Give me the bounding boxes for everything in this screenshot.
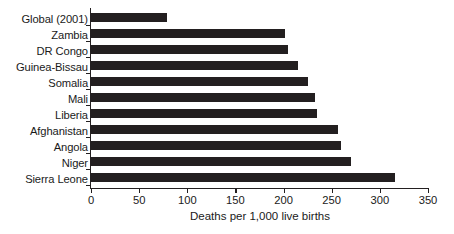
bar-fill [91, 13, 167, 22]
category-label: Afghanistan [0, 126, 88, 137]
y-axis-tick [86, 185, 90, 186]
x-axis-tick [332, 189, 333, 193]
category-label: Somalia [0, 78, 88, 89]
bar [91, 45, 288, 54]
plot-area [91, 8, 428, 188]
x-axis-tick [284, 189, 285, 193]
bar-fill [91, 61, 298, 70]
x-axis-tick [91, 189, 92, 193]
x-axis-tick-label: 300 [371, 194, 390, 206]
x-axis-tick-label: 0 [88, 194, 94, 206]
y-axis-tick [86, 105, 90, 106]
x-axis-tick [187, 189, 188, 193]
bar [91, 141, 341, 150]
bar [91, 29, 285, 38]
y-axis-tick [86, 137, 90, 138]
x-axis-tick-label: 150 [226, 194, 245, 206]
bar [91, 109, 317, 118]
x-axis-tick [235, 189, 236, 193]
y-axis-tick [86, 153, 90, 154]
y-axis-tick [86, 73, 90, 74]
x-axis-title: Deaths per 1,000 live births [91, 210, 429, 222]
category-label: DR Congo [0, 46, 88, 57]
x-axis-tick [428, 189, 429, 193]
y-axis-tick [86, 89, 90, 90]
x-axis-tick-label: 350 [419, 194, 438, 206]
bar [91, 13, 167, 22]
bar-fill [91, 77, 308, 86]
category-label: Global (2001) [0, 14, 88, 25]
x-axis-tick [380, 189, 381, 193]
bar-chart: Global (2001)ZambiaDR CongoGuinea-Bissau… [0, 0, 454, 234]
x-axis-tick [139, 189, 140, 193]
category-label: Sierra Leone [0, 174, 88, 185]
x-axis-tick-label: 200 [274, 194, 293, 206]
bar [91, 93, 315, 102]
x-axis-line [91, 188, 429, 189]
bar-fill [91, 45, 288, 54]
bar [91, 125, 338, 134]
bar [91, 61, 298, 70]
category-label: Guinea-Bissau [0, 62, 88, 73]
x-axis-tick-label: 250 [322, 194, 341, 206]
y-axis-tick [86, 121, 90, 122]
bar [91, 77, 308, 86]
category-label: Niger [0, 158, 88, 169]
bar-fill [91, 157, 351, 166]
x-axis-tick-label: 50 [133, 194, 145, 206]
y-axis-tick [86, 57, 90, 58]
category-label: Mali [0, 94, 88, 105]
bar [91, 173, 395, 182]
y-axis-line [90, 8, 91, 189]
bar-fill [91, 109, 317, 118]
y-axis-tick [86, 41, 90, 42]
bar-fill [91, 93, 315, 102]
y-axis-category-labels: Global (2001)ZambiaDR CongoGuinea-Bissau… [0, 8, 88, 188]
y-axis-tick [86, 25, 90, 26]
category-label: Zambia [0, 30, 88, 41]
bar [91, 157, 351, 166]
bar-fill [91, 141, 341, 150]
bar-fill [91, 29, 285, 38]
bar-fill [91, 173, 395, 182]
x-axis-tick-label: 100 [178, 194, 197, 206]
y-axis-tick [86, 169, 90, 170]
bar-fill [91, 125, 338, 134]
category-label: Liberia [0, 110, 88, 121]
category-label: Angola [0, 142, 88, 153]
